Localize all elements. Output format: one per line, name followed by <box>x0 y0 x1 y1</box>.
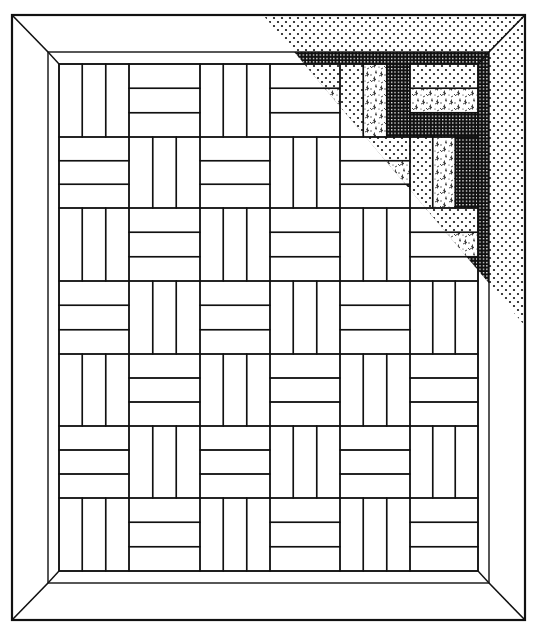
strip-fabric <box>410 88 478 112</box>
strip-fabric <box>363 64 386 137</box>
strip-fabric <box>455 137 478 208</box>
strip-fabric <box>433 137 456 208</box>
quilt-diagram <box>0 0 535 632</box>
strip-fabric <box>410 64 478 88</box>
strip-fabric <box>387 64 410 137</box>
strip-fabric <box>410 113 478 137</box>
